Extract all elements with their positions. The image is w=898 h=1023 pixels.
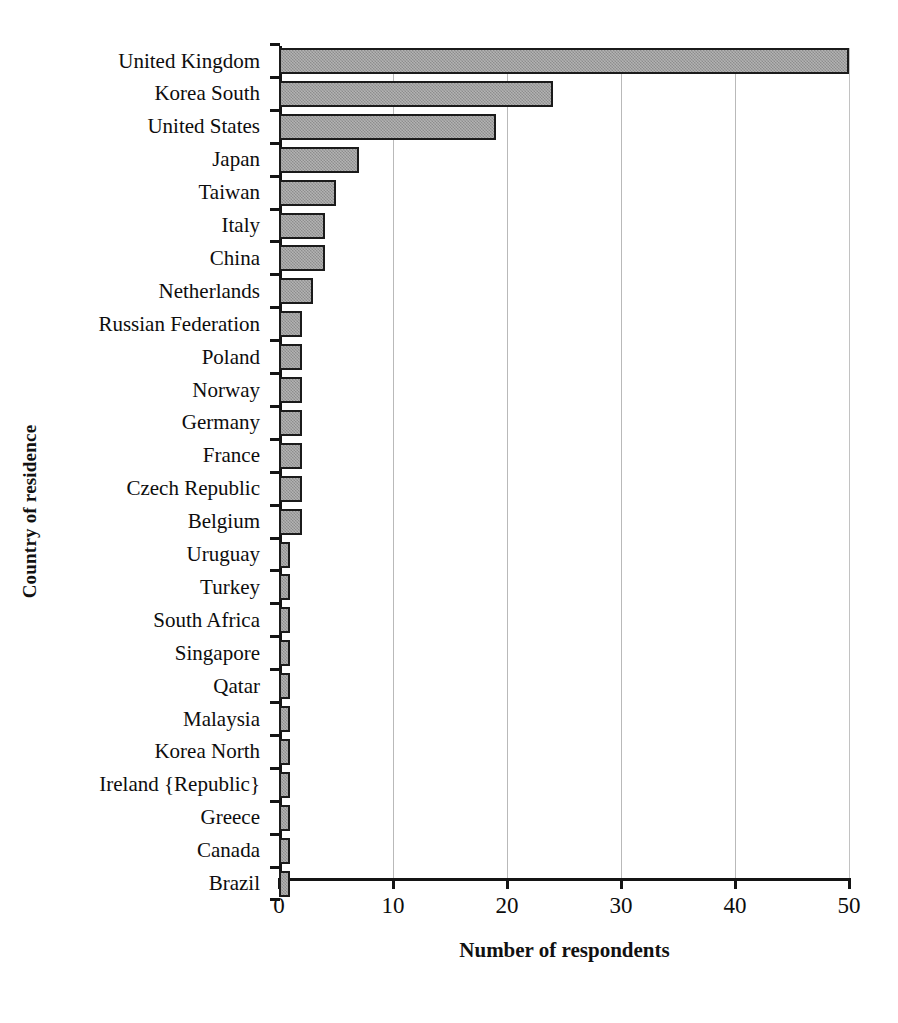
category-label: Malaysia — [0, 706, 268, 732]
y-tick — [270, 372, 280, 375]
bar[interactable] — [279, 344, 302, 370]
bar[interactable] — [279, 838, 290, 864]
x-tick-label-20: 20 — [467, 893, 547, 919]
bar[interactable] — [279, 48, 849, 74]
bar[interactable] — [279, 607, 290, 633]
bar-row — [279, 706, 849, 732]
bar[interactable] — [279, 805, 290, 831]
category-label: Japan — [0, 147, 268, 173]
bar-row — [279, 739, 849, 765]
bar-row — [279, 48, 849, 74]
bar[interactable] — [279, 574, 290, 600]
bar-row — [279, 542, 849, 568]
bar-row — [279, 344, 849, 370]
y-tick — [270, 76, 280, 79]
category-label: Germany — [0, 410, 268, 436]
y-tick — [270, 701, 280, 704]
y-tick — [270, 43, 280, 46]
bar[interactable] — [279, 311, 302, 337]
y-tick — [270, 109, 280, 112]
bar[interactable] — [279, 640, 290, 666]
category-label: Canada — [0, 838, 268, 864]
bar-row — [279, 180, 849, 206]
y-tick — [270, 471, 280, 474]
bar-row — [279, 147, 849, 173]
bar[interactable] — [279, 871, 290, 897]
bar[interactable] — [279, 180, 336, 206]
bar[interactable] — [279, 542, 290, 568]
bar[interactable] — [279, 114, 496, 140]
bar[interactable] — [279, 245, 325, 271]
bar[interactable] — [279, 509, 302, 535]
bar-row — [279, 805, 849, 831]
bar-row — [279, 871, 849, 897]
y-tick — [270, 504, 280, 507]
y-tick — [270, 537, 280, 540]
bar[interactable] — [279, 476, 302, 502]
category-label: Korea South — [0, 81, 268, 107]
gridline-50 — [849, 48, 850, 878]
bar[interactable] — [279, 443, 302, 469]
x-tick-label-0: 0 — [239, 893, 319, 919]
y-tick — [270, 833, 280, 836]
category-label: France — [0, 443, 268, 469]
bar[interactable] — [279, 377, 302, 403]
category-label: Singapore — [0, 640, 268, 666]
y-tick — [270, 438, 280, 441]
bar-row — [279, 443, 849, 469]
y-tick — [270, 767, 280, 770]
bar-row — [279, 311, 849, 337]
bar[interactable] — [279, 213, 325, 239]
y-tick — [270, 800, 280, 803]
bar-row — [279, 213, 849, 239]
x-tick-label-40: 40 — [695, 893, 775, 919]
bar[interactable] — [279, 673, 290, 699]
category-label: Qatar — [0, 673, 268, 699]
bar-row — [279, 377, 849, 403]
bar[interactable] — [279, 772, 290, 798]
y-tick — [270, 240, 280, 243]
bar[interactable] — [279, 81, 553, 107]
y-tick — [270, 569, 280, 572]
y-tick — [270, 208, 280, 211]
bar[interactable] — [279, 410, 302, 436]
category-label: Norway — [0, 377, 268, 403]
category-label: Belgium — [0, 509, 268, 535]
y-tick — [270, 142, 280, 145]
bar-row — [279, 476, 849, 502]
category-label: United States — [0, 114, 268, 140]
x-tick-label-30: 30 — [581, 893, 661, 919]
category-label: Poland — [0, 344, 268, 370]
bar-row — [279, 673, 849, 699]
category-label: Greece — [0, 805, 268, 831]
category-label: Brazil — [0, 871, 268, 897]
x-tick-label-50: 50 — [809, 893, 889, 919]
category-label: United Kingdom — [0, 48, 268, 74]
bar-row — [279, 838, 849, 864]
bar-row — [279, 114, 849, 140]
category-label: Uruguay — [0, 542, 268, 568]
y-tick — [270, 635, 280, 638]
bar-row — [279, 81, 849, 107]
x-axis-title: Number of respondents — [279, 938, 850, 963]
bar-row — [279, 574, 849, 600]
y-tick — [270, 306, 280, 309]
bar[interactable] — [279, 278, 313, 304]
y-tick — [270, 273, 280, 276]
y-tick — [270, 175, 280, 178]
category-label: South Africa — [0, 607, 268, 633]
y-tick — [270, 866, 280, 869]
bar[interactable] — [279, 739, 290, 765]
category-label: Turkey — [0, 574, 268, 600]
category-label: Netherlands — [0, 278, 268, 304]
y-tick — [270, 602, 280, 605]
category-label: China — [0, 245, 268, 271]
bar-row — [279, 640, 849, 666]
bar[interactable] — [279, 706, 290, 732]
category-label: Taiwan — [0, 180, 268, 206]
bar[interactable] — [279, 147, 359, 173]
bar-row — [279, 509, 849, 535]
bar-row — [279, 278, 849, 304]
category-label: Ireland {Republic} — [0, 772, 268, 798]
category-label: Italy — [0, 213, 268, 239]
